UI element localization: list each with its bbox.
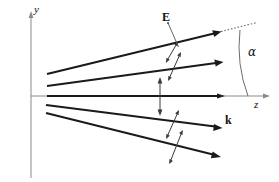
ray-upper-outer-arrowhead bbox=[212, 30, 221, 37]
ray-lower-outer bbox=[46, 113, 213, 155]
efield-axial-head-top bbox=[158, 77, 163, 84]
y-axis-arrowhead bbox=[29, 11, 34, 18]
figure-container: y z E k α bbox=[0, 0, 279, 182]
ray-extension-dotted bbox=[221, 23, 257, 32]
dotted-extension-group bbox=[221, 23, 257, 32]
ray-axial-arrowhead bbox=[217, 93, 225, 98]
efield-upper-outer-shaft bbox=[168, 45, 177, 60]
axis-group bbox=[29, 11, 270, 178]
z-axis-arrowhead bbox=[263, 94, 270, 99]
ray-upper-inner bbox=[47, 63, 216, 86]
efield-lower-inner-shaft bbox=[168, 114, 178, 136]
wave-vector-label: k bbox=[225, 114, 232, 126]
ray-group bbox=[46, 30, 225, 158]
ray-upper-inner-arrowhead bbox=[214, 60, 223, 67]
ray-lower-inner-arrowhead bbox=[213, 124, 222, 131]
ray-lower-inner bbox=[46, 105, 215, 127]
alpha-angle-label: α bbox=[248, 46, 256, 58]
alpha-arc bbox=[239, 30, 248, 96]
efield-upper-inner-shaft bbox=[170, 56, 180, 78]
efield-upper-outer-head-bottom bbox=[166, 58, 170, 63]
angle-arc-group bbox=[239, 30, 248, 96]
z-axis-label: z bbox=[254, 99, 258, 110]
y-axis-label: y bbox=[34, 4, 39, 15]
ray-upper-outer bbox=[47, 34, 214, 75]
e-field-label: E bbox=[162, 11, 170, 23]
efield-axial-head-bottom bbox=[158, 110, 163, 117]
vector-diagram-svg bbox=[0, 0, 279, 182]
ray-lower-outer-arrowhead bbox=[211, 152, 221, 159]
